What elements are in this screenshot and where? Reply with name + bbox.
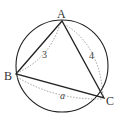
vertex-label-a: A <box>57 7 66 21</box>
vertex-label-c: C <box>106 94 114 108</box>
side-label-bc: a <box>60 90 65 101</box>
triangle-circle-diagram: A B C 3 4 a <box>0 0 122 135</box>
side-label-ac: 4 <box>89 50 94 61</box>
vertex-label-b: B <box>4 69 12 83</box>
side-label-ab: 3 <box>42 49 47 60</box>
